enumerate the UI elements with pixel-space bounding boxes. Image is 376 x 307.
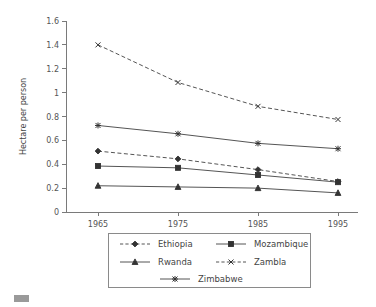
y-tick-label: 1.2 — [46, 65, 59, 74]
legend-label-rwanda: Rwanda — [158, 257, 192, 267]
legend-label-zambla: Zambla — [254, 257, 286, 267]
y-tick-label: 0.4 — [46, 160, 59, 169]
x-tick-label: 1975 — [168, 220, 188, 229]
chart-container: 00.20.40.60.811.21.41.6 1965197519851995… — [0, 0, 376, 307]
data-point-asterisk — [175, 131, 181, 137]
y-tick-label: 0.6 — [46, 136, 59, 145]
data-point-asterisk — [335, 146, 341, 152]
data-point-square — [229, 242, 234, 247]
data-point-asterisk — [95, 122, 101, 128]
data-point-square — [336, 180, 341, 185]
data-point-square — [96, 164, 101, 169]
y-tick-label: 0.2 — [46, 184, 59, 193]
data-point-asterisk — [255, 140, 261, 146]
y-axis-title-text: Hectare per person — [19, 78, 28, 155]
y-tick-label: 1.6 — [46, 17, 59, 26]
x-tick-label: 1995 — [328, 220, 348, 229]
y-tick-label: 0.8 — [46, 113, 59, 122]
legend-label-mozambique: Mozambique — [254, 239, 308, 249]
x-tick-label: 1985 — [248, 220, 268, 229]
data-point-square — [176, 165, 181, 170]
y-tick-label: 0 — [54, 208, 59, 217]
corner-artifact — [14, 295, 29, 302]
legend-label-zimbabwe: Zimbabwe — [198, 274, 243, 284]
y-tick-label: 1.4 — [46, 41, 59, 50]
y-axis-title: Hectare per person — [19, 78, 28, 155]
y-tick-label: 1 — [54, 89, 59, 98]
x-tick-label: 1965 — [88, 220, 108, 229]
data-point-asterisk — [172, 276, 178, 282]
line-chart: 00.20.40.60.811.21.41.6 1965197519851995… — [0, 0, 376, 307]
data-point-square — [256, 172, 261, 177]
legend-label-ethiopia: Ethiopia — [158, 239, 193, 249]
